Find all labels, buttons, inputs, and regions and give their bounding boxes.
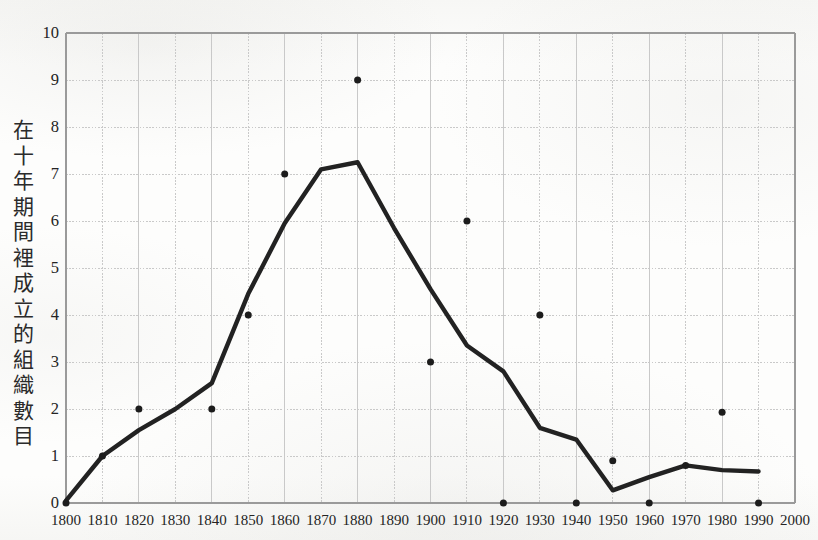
scatter-point-1950 [609,457,616,464]
scatter-point-1940 [573,500,580,507]
scatter-point-1960 [646,500,653,507]
grid-lines [66,33,795,503]
chart-figure: 在十年期間裡成立的組織數目 012345678910 1800181018201… [0,0,818,540]
trend-line-series [66,162,759,500]
scatter-point-1920 [500,500,507,507]
scatter-point-1840 [208,406,215,413]
trend-line-path [66,162,759,500]
scatter-point-1850 [245,312,252,319]
plot-area [0,0,818,540]
scatter-point-1990 [755,500,762,507]
scatter-point-1810 [99,453,106,460]
scatter-point-1910 [463,218,470,225]
scatter-point-1930 [536,312,543,319]
scatter-point-1980 [719,409,726,416]
scatter-point-1800 [63,500,70,507]
scatter-point-1880 [354,77,361,84]
scatter-point-1820 [135,406,142,413]
scatter-point-1860 [281,171,288,178]
scatter-point-1900 [427,359,434,366]
scatter-points-series [63,77,763,507]
scatter-point-1970 [682,462,689,469]
